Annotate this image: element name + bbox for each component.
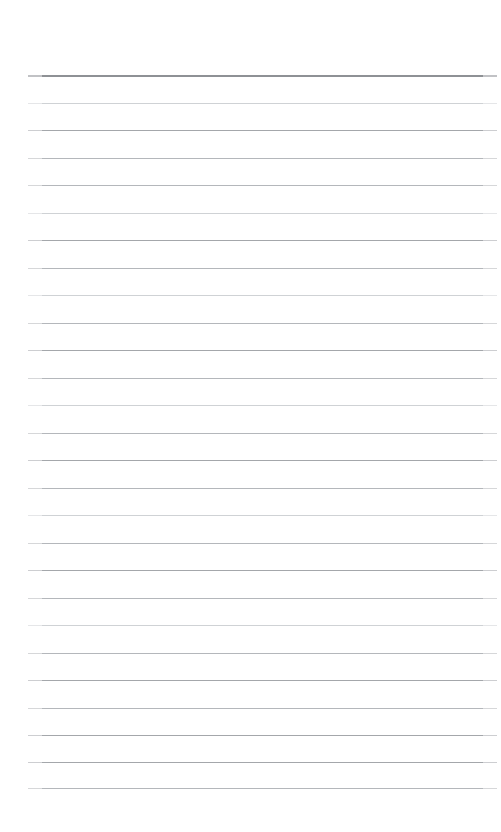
left-margin — [0, 0, 28, 832]
top-margin — [0, 0, 501, 74]
paper-sheet — [0, 0, 501, 832]
ruled-page — [0, 0, 501, 832]
right-margin — [497, 0, 501, 832]
writing-area[interactable] — [28, 75, 497, 789]
bottom-margin — [0, 790, 501, 832]
